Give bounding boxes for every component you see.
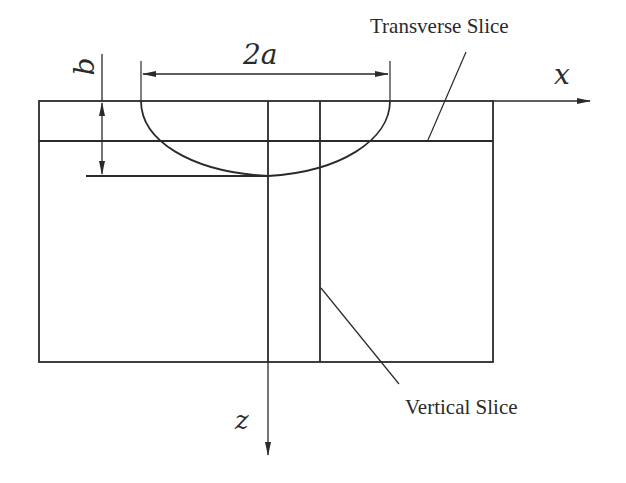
width-label: 2a [243,38,278,71]
transverse-slice-label: Transverse Slice [370,14,509,39]
depth-label: b [68,58,101,76]
transverse-slice-leader [428,52,466,140]
vertical-slice-leader [321,288,399,384]
semi-ellipse-profile [141,101,390,176]
vertical-slice-label: Vertical Slice [405,395,518,420]
z-axis-label: z [235,405,249,435]
x-axis-label: x [554,58,570,91]
